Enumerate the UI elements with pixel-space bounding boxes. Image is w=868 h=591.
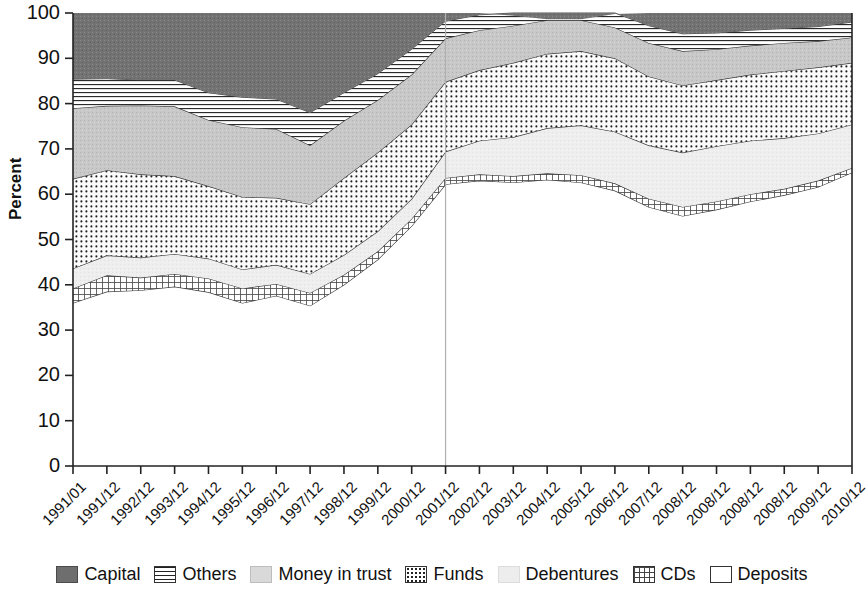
moneyintrust-swatch-icon (250, 566, 272, 583)
funds-swatch-icon (405, 566, 427, 583)
legend-item-label: Money in trust (278, 564, 391, 585)
legend-item-label: Others (182, 564, 236, 585)
others-swatch-icon (154, 566, 176, 583)
debentures-swatch-icon (498, 566, 520, 583)
legend-item-others[interactable]: Others (154, 564, 236, 585)
legend-item-label: Deposits (738, 564, 808, 585)
legend-item-deposits[interactable]: Deposits (710, 564, 808, 585)
legend-item-funds[interactable]: Funds (405, 564, 483, 585)
legend-item-label: Funds (433, 564, 483, 585)
legend-item-label: Capital (84, 564, 140, 585)
deposits-swatch-icon (710, 566, 732, 583)
legend-item-label: CDs (661, 564, 696, 585)
legend-item-cds[interactable]: CDs (633, 564, 696, 585)
legend-item-capital[interactable]: Capital (56, 564, 140, 585)
legend-item-moneyintrust[interactable]: Money in trust (250, 564, 391, 585)
legend-item-debentures[interactable]: Debentures (498, 564, 619, 585)
chart-legend: CapitalOthersMoney in trustFundsDebentur… (0, 560, 864, 588)
cds-swatch-icon (633, 566, 655, 583)
capital-swatch-icon (56, 566, 78, 583)
legend-item-label: Debentures (526, 564, 619, 585)
